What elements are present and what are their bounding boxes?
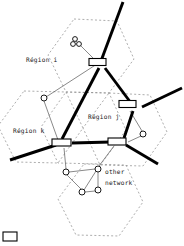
access-link-net-right <box>99 146 114 166</box>
net-link-b <box>67 175 81 189</box>
host-top-c[interactable] <box>77 42 82 47</box>
router-top[interactable] <box>89 59 106 66</box>
host-net-br[interactable] <box>95 187 101 193</box>
region-label-i: Région i <box>26 56 57 64</box>
topology-canvas: Région i Région j Région k other network <box>0 0 184 246</box>
backbone-top-to-right <box>105 68 131 103</box>
net-link-c <box>85 191 95 192</box>
network-topology-figure: Région i Région j Région k other network <box>0 0 184 246</box>
host-net-right[interactable] <box>95 166 101 172</box>
access-link-left-router <box>44 101 58 140</box>
backbone-top-exit <box>101 2 123 61</box>
other-network-line2: network <box>105 179 133 186</box>
backbone-links <box>10 2 182 164</box>
access-link-net-left <box>64 148 66 169</box>
region-boundary-bottom <box>58 164 143 236</box>
region-labels: Région i Région j Région k <box>13 56 119 135</box>
legend <box>3 232 17 241</box>
host-top-a[interactable] <box>73 37 78 42</box>
host-right[interactable] <box>140 131 146 137</box>
region-label-j: Région j <box>88 113 119 121</box>
backbone-left-to-center <box>72 142 111 143</box>
router-left[interactable] <box>52 139 71 146</box>
router-center[interactable] <box>108 138 126 145</box>
host-net-left[interactable] <box>63 169 69 175</box>
backbone-right-exit <box>142 88 182 107</box>
net-link-e <box>84 171 96 190</box>
legend-swatch-router <box>3 232 17 241</box>
host-net-bottom[interactable] <box>79 189 85 195</box>
backbone-center-exit <box>126 145 158 164</box>
backbone-right-to-center <box>124 111 133 138</box>
net-link-a <box>69 169 95 172</box>
other-network-line1: other <box>105 168 125 175</box>
router-right[interactable] <box>119 101 136 108</box>
host-top-b[interactable] <box>71 42 76 47</box>
region-label-k: Région k <box>13 127 44 135</box>
backbone-top-to-left <box>62 68 99 139</box>
host-left[interactable] <box>41 95 47 101</box>
annotation-other-network: other network <box>105 168 133 186</box>
access-link-right-center <box>128 136 141 142</box>
backbone-left-exit <box>10 145 56 160</box>
